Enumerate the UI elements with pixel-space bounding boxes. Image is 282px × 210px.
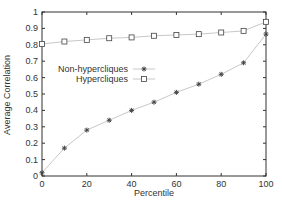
square-marker-icon	[152, 33, 157, 38]
y-axis-title: Average Correlation	[2, 55, 12, 135]
square-marker-icon	[264, 19, 269, 24]
y-tick-label: 0.8	[25, 40, 38, 50]
square-marker-icon	[241, 28, 246, 33]
y-tick-label: 1	[33, 7, 38, 17]
series-hypercliques	[40, 19, 269, 46]
star-marker-icon	[264, 32, 269, 37]
x-tick-label: 80	[216, 179, 226, 189]
y-tick-label: 0.3	[25, 122, 38, 132]
line-chart: 00.10.20.30.40.50.60.70.80.91 0204060801…	[0, 0, 282, 210]
star-marker-icon	[219, 72, 224, 77]
star-marker-icon	[40, 170, 45, 175]
star-marker-icon	[174, 90, 179, 95]
y-tick-label: 0.2	[25, 138, 38, 148]
star-marker-icon	[129, 108, 134, 113]
y-axis-ticks: 00.10.20.30.40.50.60.70.80.91	[25, 7, 266, 181]
x-tick-label: 100	[258, 179, 273, 189]
star-marker-icon	[196, 82, 201, 87]
x-tick-label: 0	[39, 179, 44, 189]
square-marker-icon	[107, 36, 112, 41]
square-marker-icon	[219, 30, 224, 35]
square-marker-icon	[129, 35, 134, 40]
y-tick-label: 0.5	[25, 89, 38, 99]
square-marker-icon	[174, 32, 179, 37]
y-tick-label: 0.4	[25, 105, 38, 115]
star-marker-icon	[84, 128, 89, 133]
legend-square-icon	[142, 77, 147, 82]
y-tick-label: 0	[33, 171, 38, 181]
x-tick-label: 20	[82, 179, 92, 189]
y-tick-label: 0.1	[25, 155, 38, 165]
x-axis-title: Percentile	[134, 188, 174, 198]
y-tick-label: 0.6	[25, 73, 38, 83]
y-tick-label: 0.7	[25, 56, 38, 66]
legend-label: Hypercliques	[76, 74, 129, 84]
y-tick-label: 0.9	[25, 23, 38, 33]
star-marker-icon	[241, 60, 246, 65]
legend-star-icon	[142, 67, 147, 72]
square-marker-icon	[40, 41, 45, 46]
star-marker-icon	[107, 118, 112, 123]
square-marker-icon	[196, 32, 201, 37]
legend-label: Non-hypercliques	[58, 64, 129, 74]
star-marker-icon	[62, 146, 67, 151]
square-marker-icon	[62, 39, 67, 44]
data-series	[40, 19, 269, 175]
series-non-hypercliques	[40, 32, 269, 176]
square-marker-icon	[84, 37, 89, 42]
legend: Non-hypercliquesHypercliques	[58, 64, 155, 84]
star-marker-icon	[152, 100, 157, 105]
